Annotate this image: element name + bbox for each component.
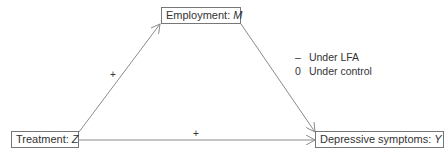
legend-row-control: 0 Under control [295,64,372,78]
treatment-label: Treatment: [16,133,72,145]
mediator-label: Employment: [166,9,233,21]
sign-treatment-to-outcome: + [193,128,199,139]
legend-row-lfa: – Under LFA [295,50,372,64]
effect-legend: – Under LFA 0 Under control [295,50,372,78]
legend-symbol: 0 [295,64,306,78]
edge-mediator-to-outcome [241,24,315,132]
treatment-var: Z [72,133,79,145]
outcome-label: Depressive symptoms: [320,133,434,145]
legend-symbol: – [295,50,306,64]
sign-treatment-to-mediator: + [110,69,116,80]
legend-text: Under LFA [309,51,359,63]
legend-text: Under control [309,65,372,77]
treatment-node: Treatment: Z [11,131,79,148]
outcome-node: Depressive symptoms: Y [315,131,444,148]
mediator-var: M [233,9,242,21]
outcome-var: Y [434,133,441,145]
edge-treatment-to-mediator [79,24,160,132]
mediator-node: Employment: M [161,7,241,24]
